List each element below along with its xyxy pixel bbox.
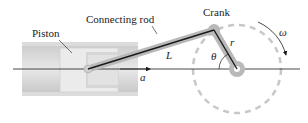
omega-label: ω	[279, 26, 287, 38]
theta-label: θ	[211, 50, 217, 62]
crank-radius-label: r	[230, 36, 235, 48]
acceleration-label: a	[140, 71, 146, 83]
slider-crank-diagram: Piston Connecting rod Crank L r θ ω a	[0, 0, 308, 123]
crank-label: Crank	[203, 6, 230, 18]
connecting-rod-label: Connecting rod	[86, 13, 155, 25]
piston-label: Piston	[32, 27, 60, 39]
rod-length-label: L	[165, 49, 172, 61]
rod-leader	[152, 26, 157, 34]
